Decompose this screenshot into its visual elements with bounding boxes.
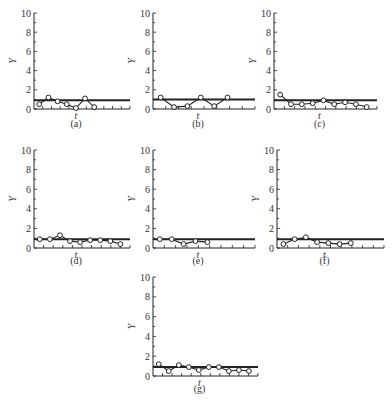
y-tick-label: 8	[26, 164, 31, 175]
panel-label: (g)	[194, 383, 206, 395]
y-tick-label: 4	[26, 65, 31, 76]
y-tick-label: 6	[26, 184, 31, 195]
data-point-marker	[64, 102, 69, 107]
data-point-marker	[58, 233, 63, 238]
y-tick-label: 2	[26, 84, 31, 95]
data-point-marker	[299, 102, 304, 107]
y-axis-title: Y	[126, 322, 137, 329]
y-tick-label: 10	[21, 8, 31, 19]
data-point-marker	[315, 240, 320, 245]
y-axis-title: Y	[7, 195, 18, 202]
data-point-marker	[353, 102, 358, 107]
y-tick-label: 6	[145, 46, 150, 57]
data-point-marker	[157, 237, 162, 242]
y-tick-label: 8	[26, 27, 31, 38]
y-tick-label: 6	[269, 184, 274, 195]
data-point-marker	[216, 365, 221, 370]
data-point-marker	[181, 242, 186, 247]
y-tick-label: 2	[266, 84, 271, 95]
y-tick-label: 10	[261, 8, 271, 19]
panel-label: (c)	[314, 118, 325, 130]
data-point-marker	[196, 368, 201, 373]
y-tick-label: 8	[269, 164, 274, 175]
chart-panel-e: 0246810Yt(e)	[126, 145, 255, 268]
y-axis-title: Y	[126, 57, 137, 64]
panel-label: (f)	[320, 255, 330, 267]
data-point-marker	[225, 95, 230, 100]
data-point-marker	[343, 100, 348, 105]
chart-panel-a: 0246810Yt(a)	[7, 8, 130, 131]
data-point-marker	[292, 237, 297, 242]
data-point-marker	[226, 369, 231, 374]
data-point-marker	[348, 241, 353, 246]
y-tick-label: 8	[145, 164, 150, 175]
data-point-marker	[303, 235, 308, 240]
y-tick-label: 4	[145, 65, 150, 76]
y-tick-label: 4	[145, 331, 150, 342]
data-point-marker	[83, 96, 88, 101]
y-tick-label: 6	[266, 46, 271, 57]
data-point-marker	[326, 241, 331, 246]
y-tick-label: 0	[145, 243, 150, 254]
data-point-marker	[289, 102, 294, 107]
y-axis-title: Y	[126, 195, 137, 202]
data-point-marker	[212, 104, 217, 109]
chart-panel-c: 0246810Yt(c)	[247, 8, 377, 131]
y-tick-label: 8	[266, 27, 271, 38]
data-point-marker	[205, 240, 210, 245]
data-point-marker	[166, 369, 171, 374]
data-point-marker	[108, 239, 113, 244]
y-tick-label: 10	[140, 145, 150, 156]
y-tick-label: 0	[26, 243, 31, 254]
y-tick-label: 8	[145, 27, 150, 38]
data-point-marker	[332, 102, 337, 107]
y-axis-title: Y	[7, 57, 18, 64]
data-point-marker	[73, 106, 78, 111]
y-tick-label: 8	[145, 291, 150, 302]
y-tick-label: 4	[145, 203, 150, 214]
y-tick-label: 10	[21, 145, 31, 156]
y-axis-title: Y	[247, 57, 258, 64]
figure-canvas: 0246810Yt(a)0246810Yt(b)0246810Yt(c)0246…	[0, 0, 392, 407]
chart-panel-b: 0246810Yt(b)	[126, 8, 255, 131]
y-axis-title: Y	[250, 195, 261, 202]
data-point-marker	[281, 242, 286, 247]
data-point-marker	[37, 102, 42, 107]
data-point-marker	[158, 95, 163, 100]
data-point-marker	[321, 98, 326, 103]
data-point-marker	[172, 105, 177, 110]
y-tick-label: 2	[269, 223, 274, 234]
data-point-marker	[156, 362, 161, 367]
panel-label: (a)	[70, 118, 81, 130]
y-tick-label: 2	[145, 351, 150, 362]
chart-panel-f: 0246810Yt(f)	[250, 145, 384, 268]
y-tick-label: 0	[266, 104, 271, 115]
panel-label: (b)	[192, 118, 204, 130]
y-tick-label: 6	[145, 311, 150, 322]
y-tick-label: 6	[26, 46, 31, 57]
data-point-marker	[55, 99, 60, 104]
data-point-marker	[88, 238, 93, 243]
data-point-marker	[206, 365, 211, 370]
y-tick-label: 4	[266, 65, 271, 76]
chart-panel-g: 0246810Yt(g)	[126, 272, 258, 396]
data-point-marker	[68, 239, 73, 244]
y-tick-label: 6	[145, 184, 150, 195]
data-point-marker	[37, 237, 42, 242]
data-point-marker	[278, 92, 283, 97]
data-point-marker	[46, 95, 51, 100]
y-tick-label: 0	[145, 104, 150, 115]
data-point-marker	[310, 101, 315, 106]
data-point-marker	[176, 363, 181, 368]
data-point-marker	[185, 104, 190, 109]
data-point-marker	[193, 239, 198, 244]
y-tick-label: 2	[145, 84, 150, 95]
data-point-marker	[118, 242, 123, 247]
panel-label: (e)	[192, 255, 203, 267]
panel-label: (d)	[70, 255, 82, 267]
data-point-marker	[337, 242, 342, 247]
y-tick-label: 10	[140, 8, 150, 19]
data-point-marker	[78, 240, 83, 245]
y-tick-label: 10	[140, 272, 150, 283]
data-point-marker	[92, 105, 97, 110]
